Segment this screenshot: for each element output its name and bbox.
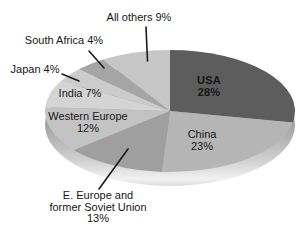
pie-label-usa: USA 28%: [197, 75, 221, 98]
label-line: India 7%: [59, 88, 102, 100]
pie-label-japan: Japan 4%: [11, 64, 60, 76]
pie-label-china: China 23%: [188, 129, 217, 152]
label-line: E. Europe and: [49, 190, 146, 202]
pie-label-south-africa: South Africa 4%: [25, 35, 103, 47]
pie-chart: All others 9% South Africa 4% Japan 4% I…: [0, 0, 306, 238]
label-line: South Africa 4%: [25, 35, 103, 47]
pie-label-western-europe: Western Europe 12%: [48, 111, 127, 134]
pie-label-india: India 7%: [59, 88, 102, 100]
label-line: Western Europe: [48, 111, 127, 123]
label-line: Japan 4%: [11, 64, 60, 76]
pie-slice-usa: [170, 50, 295, 122]
label-line: 28%: [197, 87, 221, 99]
pie-label-e-europe: E. Europe and former Soviet Union 13%: [49, 190, 146, 225]
label-line: All others 9%: [107, 12, 172, 24]
label-line: USA: [197, 75, 221, 87]
label-line: 23%: [188, 141, 217, 153]
label-line: 13%: [49, 213, 146, 225]
label-line: China: [188, 129, 217, 141]
label-line: 12%: [48, 123, 127, 135]
pie-label-all-others: All others 9%: [107, 12, 172, 24]
